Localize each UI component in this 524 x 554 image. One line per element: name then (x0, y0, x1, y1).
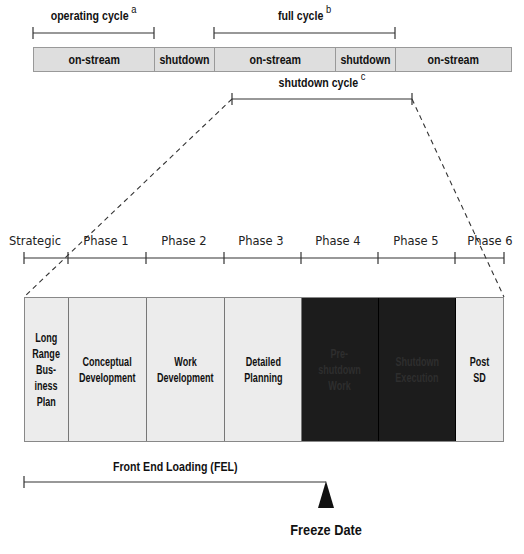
full-cycle-label: full cycleb (228, 9, 382, 23)
operating-cycle-text: operating cycle (51, 9, 129, 23)
box-text-line: Detailed (245, 354, 280, 370)
phase-label-strategic: Strategic (9, 234, 61, 248)
segment-label: on-stream (428, 53, 479, 67)
shutdown-cycle-label: shutdown cyclec (246, 76, 399, 90)
full-cycle-bracket (214, 27, 395, 39)
segment-on-stream: on-stream (215, 48, 336, 71)
segment-on-stream: on-stream (396, 48, 511, 71)
operating-timeline-bar: on-stream shutdown on-stream shutdown on… (33, 47, 512, 72)
fel-text: Front End Loading (FEL) (113, 460, 238, 474)
box-long-range-business-plan: Long Range Bus- iness Plan (25, 298, 69, 441)
phase-axis (24, 252, 504, 264)
fel-bracket (24, 476, 326, 488)
zoom-connector-lines (24, 99, 504, 297)
footnote-b: b (326, 3, 331, 15)
segment-on-stream: on-stream (34, 48, 155, 71)
box-text-line: Plan (37, 394, 56, 410)
phase-label-6: Phase 6 (467, 234, 512, 248)
segment-label: on-stream (249, 53, 300, 67)
phase-label-2: Phase 2 (161, 234, 206, 248)
operating-cycle-label: operating cyclea (42, 9, 145, 23)
box-text-line: Work (329, 378, 351, 394)
box-text-line: Execution (395, 370, 438, 386)
fel-label: Front End Loading (FEL) (75, 460, 275, 474)
shutdown-cycle-bracket (232, 93, 412, 105)
phase-label-1: Phase 1 (83, 234, 128, 248)
box-text-line: Work (174, 354, 196, 370)
segment-label: shutdown (159, 53, 209, 67)
box-text-line: Development (79, 370, 136, 386)
box-text-line: Development (157, 370, 214, 386)
box-text-line: Post SD (463, 354, 497, 386)
phase-label-3: Phase 3 (238, 234, 283, 248)
segment-shutdown: shutdown (155, 48, 215, 71)
freeze-date-label: Freeze Date (276, 521, 376, 538)
segment-label: shutdown (340, 53, 390, 67)
box-pre-shutdown-work: Pre- shutdown Work (302, 298, 379, 441)
segment-shutdown: shutdown (336, 48, 396, 71)
box-text-line: Conceptual (83, 354, 132, 370)
full-cycle-text: full cycle (278, 9, 323, 23)
box-text-line: Shutdown (395, 354, 439, 370)
box-detailed-planning: Detailed Planning (225, 298, 302, 441)
box-text-line: iness (35, 378, 58, 394)
box-shutdown-execution: Shutdown Execution (379, 298, 456, 441)
box-text-line: Bus- (36, 362, 56, 378)
freeze-date-marker-icon (318, 481, 334, 508)
segment-label: on-stream (68, 53, 119, 67)
shutdown-cycle-text: shutdown cycle (279, 76, 359, 90)
operating-cycle-bracket (33, 27, 154, 39)
box-text-line: shutdown (319, 362, 362, 378)
phase-label-4: Phase 4 (315, 234, 360, 248)
box-post-sd: Post SD (456, 298, 503, 441)
box-text-line: Pre- (331, 346, 349, 362)
box-conceptual-development: Conceptual Development (69, 298, 147, 441)
box-work-development: Work Development (147, 298, 225, 441)
freeze-date-text: Freeze Date (290, 521, 362, 538)
box-text-line: Range (33, 346, 61, 362)
phase-label-5: Phase 5 (393, 234, 438, 248)
box-text-line: Long (35, 330, 57, 346)
box-text-line: Planning (244, 370, 282, 386)
footnote-a: a (131, 3, 136, 15)
shutdown-phase-boxes: Long Range Bus- iness Plan Conceptual De… (24, 297, 504, 442)
